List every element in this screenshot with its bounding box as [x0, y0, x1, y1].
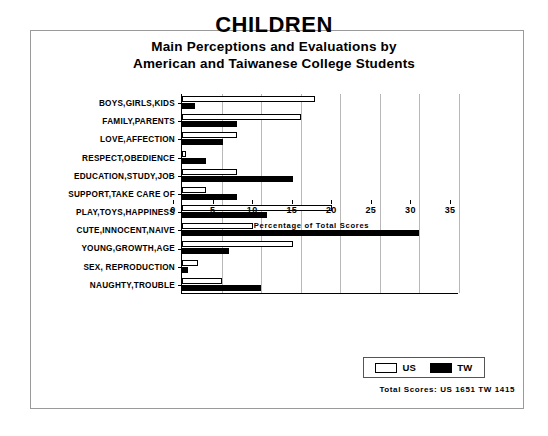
bar-group	[182, 258, 458, 276]
chart-title: CHILDREN	[0, 12, 548, 38]
x-axis-tick	[252, 200, 253, 204]
bar-tw	[182, 248, 229, 254]
x-axis-tick	[371, 200, 372, 204]
category-label: YOUNG,GROWTH,AGE	[81, 240, 175, 258]
category-label: FAMILY,PARENTS	[102, 113, 175, 131]
bar-us	[182, 260, 198, 266]
category-label: SUPPORT,TAKE CARE OF	[68, 186, 175, 204]
category-label: BOYS,GIRLS,KIDS	[99, 95, 175, 113]
x-axis-tick-label: 20	[326, 205, 337, 215]
x-axis-tick	[450, 200, 451, 204]
category-label: EDUCATION,STUDY,JOB	[74, 168, 175, 186]
bar-us	[182, 241, 293, 247]
bar-us	[182, 132, 237, 138]
legend-label-tw: TW	[457, 362, 472, 373]
legend-swatch-tw-icon	[430, 363, 452, 373]
bar-group	[182, 149, 458, 167]
bar-us	[182, 114, 301, 120]
x-axis-tick	[292, 200, 293, 204]
bar-group	[182, 167, 458, 185]
category-label: CUTE,INNOCENT,NAIVE	[77, 222, 175, 240]
gridline	[459, 94, 460, 293]
x-axis-tick	[173, 200, 174, 204]
bar-group	[182, 94, 458, 112]
x-axis-tick-label: 10	[247, 205, 258, 215]
bar-tw	[182, 139, 223, 145]
plot-wrapper: BOYS,GIRLS,KIDSFAMILY,PARENTSLOVE,AFFECT…	[8, 94, 486, 294]
legend-entry-tw: TW	[430, 362, 472, 373]
x-axis-tick-label: 25	[366, 205, 377, 215]
bar-group	[182, 112, 458, 130]
totals-note: Total Scores: US 1651 TW 1415	[0, 385, 515, 394]
category-label: PLAY,TOYS,HAPPINESS	[76, 204, 175, 222]
bar-group	[182, 239, 458, 257]
bar-tw	[182, 176, 293, 182]
bar-tw	[182, 230, 419, 236]
chart-subtitle-line-1: Main Perceptions and Evaluations by	[0, 38, 548, 55]
bar-group	[182, 276, 458, 294]
x-axis-title: Percentage of Total Scores	[173, 221, 450, 230]
bar-tw	[182, 103, 195, 109]
category-label: RESPECT,OBEDIENCE	[82, 150, 175, 168]
plot-area	[181, 94, 458, 294]
title-block: CHILDREN Main Perceptions and Evaluation…	[0, 12, 548, 72]
x-axis-tick	[213, 200, 214, 204]
x-axis-tick	[410, 200, 411, 204]
bar-us	[182, 187, 206, 193]
bar-tw	[182, 194, 237, 200]
bar-us	[182, 169, 237, 175]
category-label: LOVE,AFFECTION	[100, 131, 175, 149]
chart-subtitle-line-2: American and Taiwanese College Students	[0, 55, 548, 72]
x-axis-tick	[331, 200, 332, 204]
bar-us	[182, 151, 186, 157]
bar-us	[182, 96, 315, 102]
x-axis-tick-label: 30	[405, 205, 416, 215]
bar-tw	[182, 267, 188, 273]
bar-tw	[182, 285, 261, 291]
category-label: SEX, REPRODUCTION	[83, 259, 175, 277]
legend: US TW	[363, 357, 485, 378]
legend-entry-us: US	[375, 362, 416, 373]
category-axis: BOYS,GIRLS,KIDSFAMILY,PARENTSLOVE,AFFECT…	[8, 94, 181, 294]
bar-tw	[182, 121, 237, 127]
x-axis-tick-labels: 05101520253035	[173, 205, 450, 219]
category-label: NAUGHTY,TROUBLE	[90, 277, 175, 295]
legend-label-us: US	[402, 362, 416, 373]
x-axis-tick-label: 0	[170, 205, 175, 215]
bar-tw	[182, 158, 206, 164]
x-axis-tick-label: 15	[286, 205, 297, 215]
legend-swatch-us-icon	[375, 363, 397, 373]
bar-group	[182, 130, 458, 148]
x-axis-tick-label: 5	[210, 205, 215, 215]
bar-us	[182, 278, 222, 284]
x-axis-tick-label: 35	[445, 205, 456, 215]
